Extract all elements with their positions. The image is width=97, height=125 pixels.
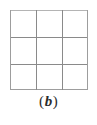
figure-panel-b: (b): [0, 0, 97, 125]
grid-line-vertical-2: [62, 10, 63, 90]
grid-border-top: [10, 10, 88, 11]
caption-label: b: [44, 93, 53, 109]
grid-border-right: [87, 10, 88, 90]
caption-close-paren: ): [53, 93, 58, 109]
grid-line-horizontal-1: [10, 37, 88, 38]
grid-line-vertical-1: [36, 10, 37, 90]
grid-border-left: [10, 10, 11, 90]
grid-line-horizontal-2: [10, 64, 88, 65]
figure-caption: (b): [0, 93, 97, 110]
three-by-three-grid: [10, 10, 88, 90]
grid-border-bottom: [10, 89, 88, 90]
